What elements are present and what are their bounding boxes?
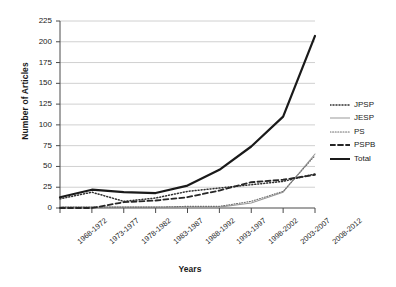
y-tick-label: 175 — [26, 58, 52, 67]
legend-item-pspb[interactable]: PSPB — [330, 139, 394, 153]
legend-swatch-total — [330, 154, 350, 164]
legend-item-ps[interactable]: PS — [330, 125, 394, 139]
legend-label: Total — [354, 154, 371, 164]
y-tick-label: 50 — [26, 161, 52, 170]
line-chart: Number of Articles Years 225200175150125… — [0, 0, 396, 287]
y-tick-label: 0 — [26, 203, 52, 212]
y-tick-label: 225 — [26, 16, 52, 25]
y-tick-label: 100 — [26, 120, 52, 129]
legend-label: PSPB — [354, 140, 375, 150]
y-tick-label: 25 — [26, 182, 52, 191]
y-tick-label: 125 — [26, 99, 52, 108]
series-line-total — [60, 36, 315, 197]
x-axis-title: Years — [120, 264, 260, 274]
chart-legend: JPSPJESPPSPSPBTotal — [330, 98, 394, 166]
legend-swatch-pspb — [330, 140, 350, 150]
legend-item-total[interactable]: Total — [330, 152, 394, 166]
legend-swatch-jpsp — [330, 100, 350, 110]
legend-item-jpsp[interactable]: JPSP — [330, 98, 394, 112]
legend-swatch-ps — [330, 127, 350, 137]
legend-swatch-jesp — [330, 113, 350, 123]
legend-label: JPSP — [354, 100, 374, 110]
y-tick-label: 200 — [26, 37, 52, 46]
legend-label: JESP — [354, 113, 374, 123]
legend-label: PS — [354, 127, 365, 137]
legend-item-jesp[interactable]: JESP — [330, 112, 394, 126]
y-tick-label: 150 — [26, 78, 52, 87]
y-tick-label: 75 — [26, 141, 52, 150]
